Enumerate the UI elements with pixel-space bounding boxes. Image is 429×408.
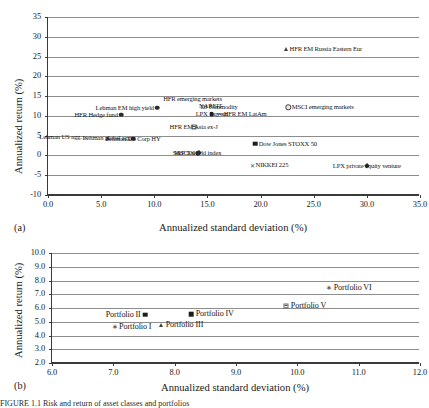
- y-tick-mark: [49, 294, 52, 295]
- gridline-y-35: [48, 17, 419, 18]
- data-point-label: Portfolio V: [291, 302, 326, 310]
- data-point-marker: [119, 112, 124, 117]
- y-tick-label: 10.0: [5, 249, 45, 257]
- data-point-label: Portfolio I: [119, 323, 151, 331]
- data-point-label: Lehman US agg.: [39, 134, 81, 141]
- data-point-label: Portfolio IV: [196, 310, 234, 318]
- x-tick-label: 12.0: [413, 369, 427, 377]
- data-point-marker: [155, 105, 160, 110]
- x-tick-label: 10.0: [290, 369, 304, 377]
- y-tick-mark: [45, 155, 48, 156]
- x-tick-label: 11.0: [352, 369, 366, 377]
- x-tick-mark: [236, 363, 237, 366]
- y-tick-mark: [45, 37, 48, 38]
- gridline-y-70: [52, 294, 419, 295]
- y-tick-mark: [49, 336, 52, 337]
- data-point-marker: [159, 323, 163, 327]
- gridline-y-50: [52, 322, 419, 323]
- gridline-y-5: [48, 175, 419, 176]
- y-tick-label: 2.0: [5, 359, 45, 367]
- x-tick-label: 25.0: [307, 201, 321, 209]
- gridline-y-25: [48, 57, 419, 58]
- y-tick-mark: [49, 349, 52, 350]
- y-tick-label: 30: [1, 33, 41, 41]
- data-point-marker: [253, 141, 258, 146]
- x-tick-label: 8.0: [170, 369, 180, 377]
- y-axis-title-a: Annualized return (%): [13, 79, 24, 174]
- y-tick-mark: [49, 281, 52, 282]
- x-tick-mark: [113, 363, 114, 366]
- x-tick-label: 10.0: [147, 201, 161, 209]
- data-point-marker: ∗: [112, 324, 118, 330]
- data-point-marker: ∗: [326, 285, 332, 291]
- data-point-label: LPX Buyout: [196, 111, 228, 118]
- y-tick-mark: [49, 322, 52, 323]
- chart-panel-a: -10-5051015202530350.05.010.015.020.025.…: [0, 0, 429, 240]
- y-tick-label: 6.0: [5, 304, 45, 312]
- data-point-marker: [143, 313, 148, 318]
- gridline-y-100: [52, 253, 419, 254]
- data-point-marker: [189, 312, 194, 317]
- y-tick-label: 7.0: [5, 290, 45, 298]
- gridline-y-10: [48, 195, 419, 196]
- x-tick-label: 7.0: [108, 369, 118, 377]
- gridline-y-20: [48, 76, 419, 77]
- gridline-y-0: [48, 155, 419, 156]
- x-axis-title-b: Annualized standard deviation (%): [51, 382, 419, 393]
- panel-tag-b: (b): [14, 380, 26, 391]
- data-point-label: HFR Hedge fund: [75, 111, 118, 118]
- data-point-marker: ✕: [250, 162, 255, 167]
- y-tick-label: -10: [1, 191, 41, 199]
- gridline-y-30: [52, 349, 419, 350]
- data-point-label: NIKKEI 225: [256, 162, 289, 169]
- data-point-label: Lehman US Corp HY: [105, 136, 160, 143]
- data-point-label: HFR EM Asia ex-J: [170, 124, 218, 131]
- x-tick-label: 6.0: [47, 369, 57, 377]
- data-point-label: S&P 500: [173, 150, 196, 157]
- x-tick-mark: [367, 195, 368, 198]
- y-tick-label: 9.0: [5, 263, 45, 271]
- y-tick-mark: [45, 76, 48, 77]
- y-tick-label: 3.0: [5, 345, 45, 353]
- x-tick-label: 35.0: [413, 201, 427, 209]
- data-point-label: Portfolio II: [106, 311, 141, 319]
- x-tick-label: 20.0: [253, 201, 267, 209]
- gridline-y-90: [52, 267, 419, 268]
- x-tick-mark: [297, 363, 298, 366]
- y-tick-mark: [45, 57, 48, 58]
- y-axis-title-b: Annualized return (%): [13, 263, 24, 358]
- data-point-label: MSCI emerging markets: [292, 104, 354, 111]
- data-point-marker: [284, 47, 288, 51]
- y-tick-mark: [45, 175, 48, 176]
- y-tick-mark: [45, 116, 48, 117]
- gridline-y-80: [52, 281, 419, 282]
- data-point-label: HFR EM Russia Eastern Eur: [290, 46, 362, 53]
- x-tick-mark: [48, 195, 49, 198]
- y-tick-mark: [49, 267, 52, 268]
- x-tick-label: 5.0: [96, 201, 106, 209]
- x-tick-mark: [101, 195, 102, 198]
- data-point-marker: [286, 104, 291, 109]
- x-tick-label: 0.0: [43, 201, 53, 209]
- gridline-y-40: [52, 336, 419, 337]
- x-tick-mark: [261, 195, 262, 198]
- y-tick-mark: [49, 253, 52, 254]
- data-point-label: HFR EM LatAm: [224, 110, 267, 117]
- plot-area-a: -10-5051015202530350.05.010.015.020.025.…: [47, 17, 419, 195]
- y-tick-label: 5.0: [5, 318, 45, 326]
- data-point-label: LPX private equity venture: [333, 162, 401, 169]
- x-tick-mark: [52, 363, 53, 366]
- x-tick-label: 9.0: [231, 369, 241, 377]
- y-tick-label: 8.0: [5, 276, 45, 284]
- gridline-y-15: [48, 96, 419, 97]
- panel-tag-a: (a): [14, 222, 25, 233]
- x-tick-label: 15.0: [200, 201, 214, 209]
- x-tick-mark: [359, 363, 360, 366]
- y-tick-label: 4.0: [5, 331, 45, 339]
- y-tick-mark: [45, 17, 48, 18]
- x-tick-mark: [420, 363, 421, 366]
- y-tick-label: 35: [1, 13, 41, 21]
- figure-caption: FIGURE 1.1 Risk and return of asset clas…: [0, 399, 429, 408]
- x-tick-label: 30.0: [360, 201, 374, 209]
- x-tick-mark: [314, 195, 315, 198]
